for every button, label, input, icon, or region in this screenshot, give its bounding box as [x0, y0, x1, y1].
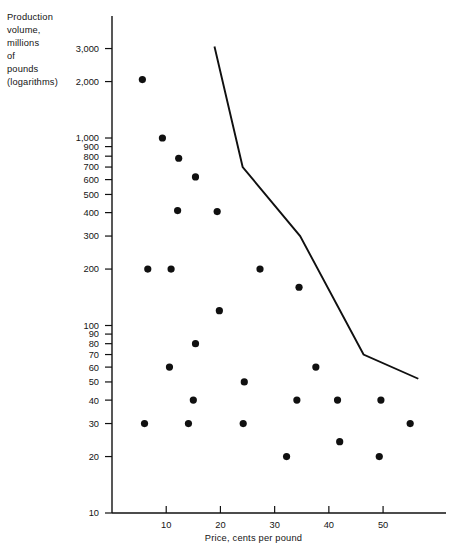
- y-tick-label: 60: [89, 363, 99, 373]
- scatter-point: [175, 155, 182, 162]
- y-tick-label: 50: [89, 377, 99, 387]
- y-tick-label: 40: [89, 396, 99, 406]
- scatter-point: [166, 364, 173, 371]
- scatter-point: [334, 397, 341, 404]
- scatter-point: [159, 134, 166, 141]
- scatter-point: [377, 397, 384, 404]
- scatter-point: [144, 265, 151, 272]
- scatter-point: [190, 397, 197, 404]
- y-tick-label: 90: [89, 329, 99, 339]
- y-tick-label: 200: [83, 264, 99, 274]
- y-tick-label: 600: [83, 175, 99, 185]
- scatter-point: [283, 453, 290, 460]
- scatter-point: [174, 207, 181, 214]
- y-tick-label: 900: [83, 142, 99, 152]
- y-tick-label: 20: [89, 452, 99, 462]
- scatter-point: [241, 378, 248, 385]
- scatter-point: [240, 420, 247, 427]
- y-tick-label: 300: [83, 231, 99, 241]
- scatter-point: [336, 438, 343, 445]
- scatter-point: [185, 420, 192, 427]
- scatter-point: [192, 173, 199, 180]
- y-tick-label: 1,000: [76, 133, 99, 143]
- x-axis-title: Price, cents per pound: [0, 533, 451, 543]
- x-tick-label: 20: [215, 520, 225, 530]
- y-tick-label: 30: [89, 419, 99, 429]
- scatter-point: [376, 453, 383, 460]
- y-tick-label: 80: [89, 339, 99, 349]
- scatter-point: [295, 284, 302, 291]
- scatter-point: [167, 265, 174, 272]
- y-tick-label: 700: [83, 162, 99, 172]
- x-tick-label: 30: [269, 520, 279, 530]
- scatter-point: [141, 420, 148, 427]
- scatter-point: [407, 420, 414, 427]
- scatter-point: [139, 76, 146, 83]
- y-tick-label: 10: [89, 508, 99, 518]
- y-axis-title: Production volume, millions of pounds (l…: [7, 11, 95, 90]
- scatter-point: [214, 208, 221, 215]
- scatter-point: [192, 340, 199, 347]
- frontier-line: [214, 46, 418, 378]
- chart-figure: Production volume, millions of pounds (l…: [0, 0, 451, 558]
- scatter-point: [293, 397, 300, 404]
- scatter-point: [216, 307, 223, 314]
- scatter-point: [312, 364, 319, 371]
- y-tick-label: 400: [83, 208, 99, 218]
- x-tick-label: 50: [378, 520, 388, 530]
- x-tick-label: 40: [324, 520, 334, 530]
- y-tick-label: 800: [83, 152, 99, 162]
- y-tick-label: 70: [89, 350, 99, 360]
- y-tick-label: 100: [83, 321, 99, 331]
- scatter-point: [256, 265, 263, 272]
- x-tick-label: 10: [161, 520, 171, 530]
- y-tick-label: 500: [83, 190, 99, 200]
